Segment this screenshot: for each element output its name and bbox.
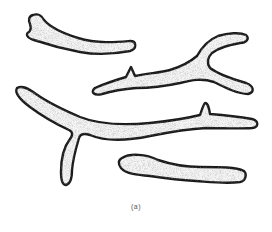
figure-caption: (a) bbox=[0, 203, 272, 210]
illustration bbox=[0, 0, 272, 232]
